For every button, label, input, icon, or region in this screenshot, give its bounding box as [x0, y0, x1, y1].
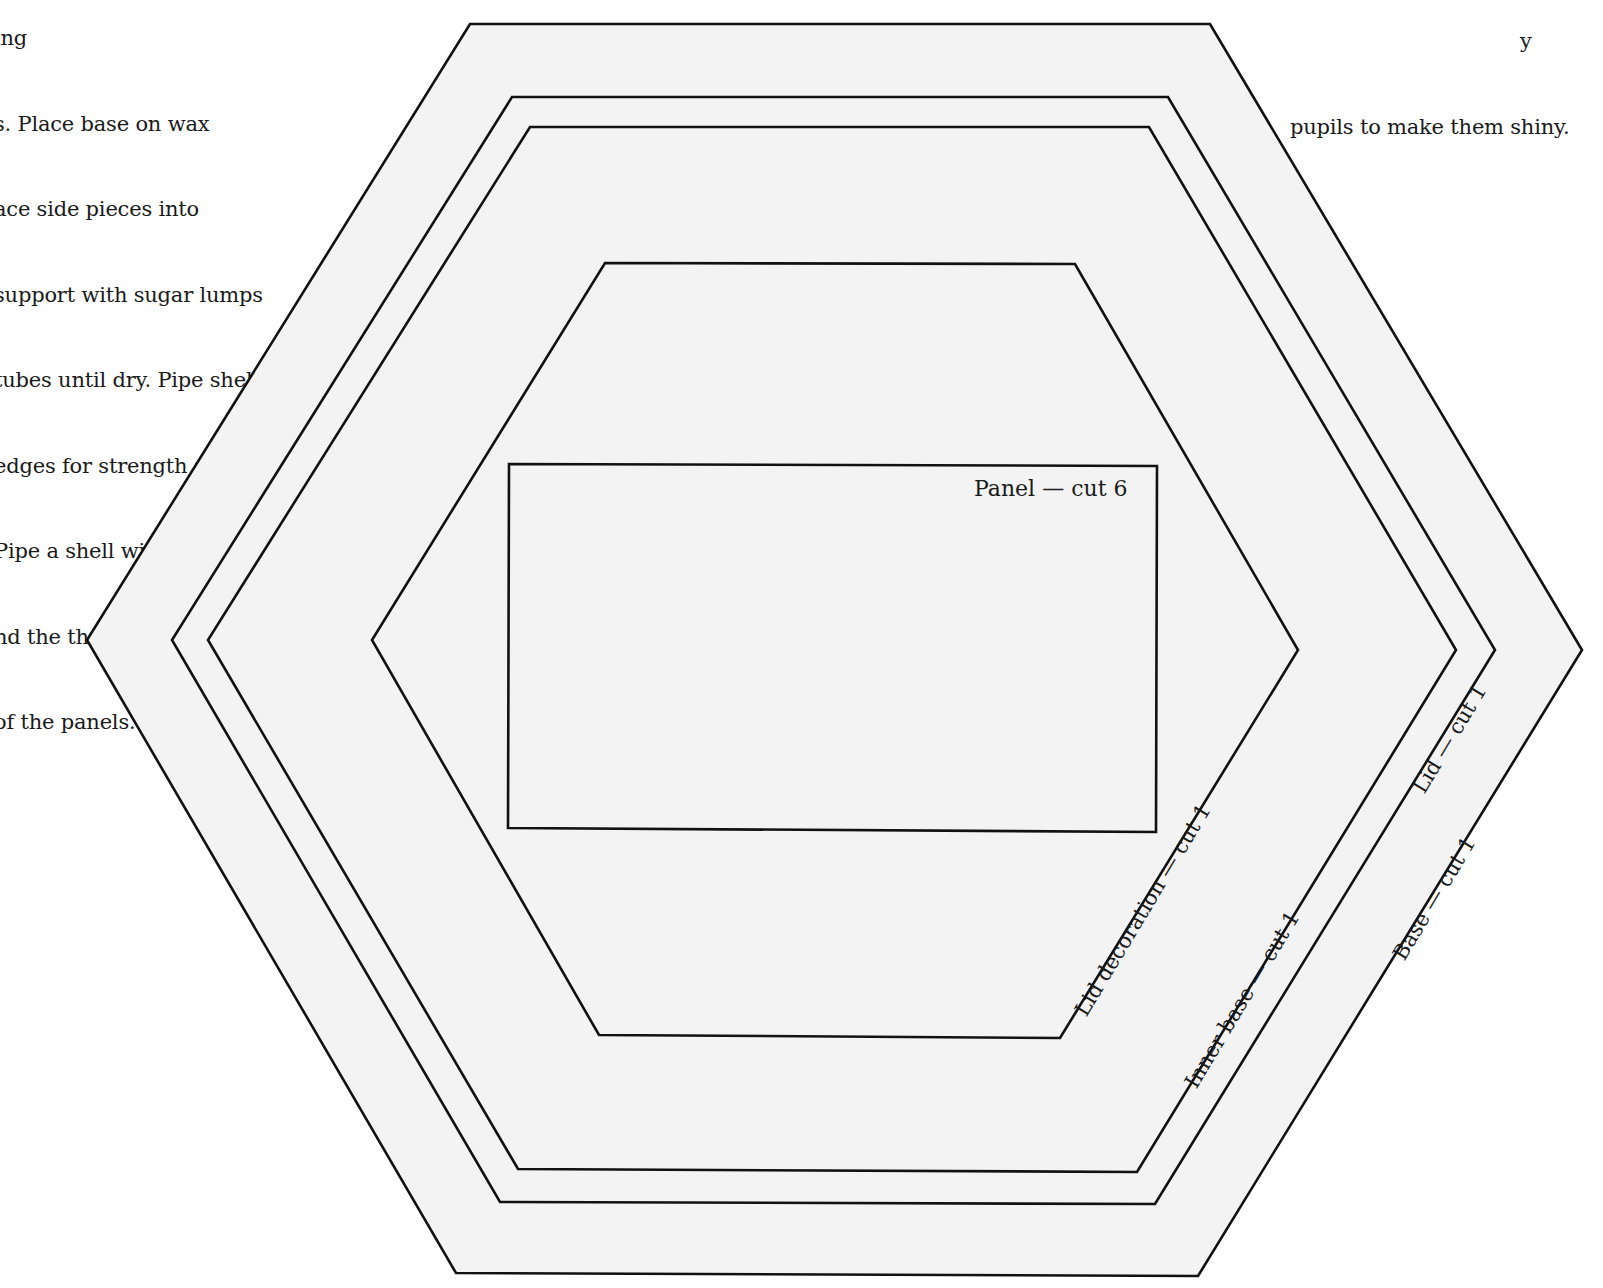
cutting-template-diagram	[0, 0, 1603, 1288]
base-hexagon	[87, 24, 1582, 1276]
panel-label: Panel — cut 6	[974, 476, 1127, 501]
